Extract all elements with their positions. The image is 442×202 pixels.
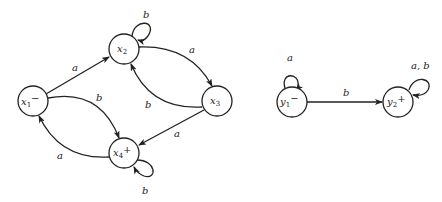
state-x4: x4+	[109, 138, 139, 168]
edge-label-x2-loop: b	[143, 9, 149, 20]
edge-label-x2-x3: a	[189, 44, 195, 55]
edge-label-x1-x2: a	[72, 62, 78, 73]
edge-label-y1-loop: a	[287, 52, 293, 63]
state-y2: y2+	[383, 87, 413, 117]
edge-label-x3-x4: a	[174, 128, 180, 139]
state-x3: x3	[202, 86, 232, 116]
edge-label-x4-x1: a	[57, 150, 63, 161]
state-x2: x2	[109, 34, 139, 64]
state-x1: x1−	[18, 86, 48, 116]
edge-label-x3-x2: b	[145, 99, 151, 110]
edge-x3-x4	[139, 110, 204, 145]
edge-label-y2-loop: a, b	[411, 60, 430, 71]
edge-y2-loop	[409, 79, 429, 95]
state-y1: y1−	[277, 87, 307, 117]
edge-x2-x3	[139, 47, 212, 86]
edge-label-x4-loop: b	[142, 185, 148, 196]
edge-x4-x1	[39, 116, 109, 157]
edge-x3-x2	[131, 64, 202, 107]
edge-label-x1-x4: b	[96, 92, 102, 103]
edge-label-y1-y2: b	[343, 87, 349, 98]
automata-diagram: a b a a b a b b x1− x2 x3 x4+ a b a, b	[0, 0, 442, 202]
edge-x1-x4	[48, 96, 119, 138]
edge-x4-loop	[134, 160, 153, 177]
